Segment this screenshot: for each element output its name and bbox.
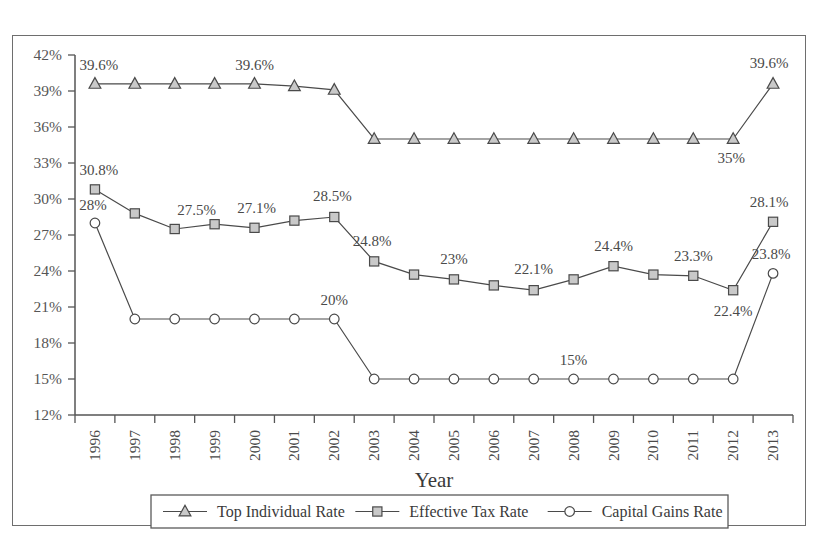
- data-label: 22.4%: [714, 303, 753, 319]
- data-point-marker: [250, 223, 259, 232]
- y-tick-label: 36%: [34, 118, 63, 135]
- chart-legend[interactable]: Top Individual RateEffective Tax RateCap…: [151, 495, 728, 528]
- data-point-marker: [489, 281, 498, 290]
- data-label: 23.8%: [752, 246, 791, 262]
- data-point-marker: [449, 275, 458, 284]
- y-tick-label: 18%: [34, 334, 63, 351]
- chart-page: 12%15%18%21%24%27%30%33%36%39%42% 39.6%3…: [0, 0, 820, 538]
- data-point-marker: [569, 275, 578, 284]
- x-tick-label: 2004: [405, 430, 422, 461]
- data-point-marker: [689, 271, 698, 280]
- data-point-marker: [608, 133, 620, 144]
- y-tick-label: 15%: [34, 370, 63, 387]
- legend-label: Capital Gains Rate: [602, 503, 723, 521]
- data-label: 39.6%: [750, 55, 789, 71]
- series-capital-gains-rate: [90, 218, 778, 384]
- series-line: [95, 223, 773, 379]
- x-tick-label: 2010: [644, 430, 661, 461]
- data-label: 23%: [440, 251, 468, 267]
- data-point-marker: [330, 212, 339, 221]
- data-point-marker: [729, 286, 738, 295]
- line-chart: 12%15%18%21%24%27%30%33%36%39%42% 39.6%3…: [0, 0, 820, 538]
- data-point-marker: [687, 133, 699, 144]
- data-label: 39.6%: [235, 57, 274, 73]
- data-label: 20%: [321, 292, 349, 308]
- data-point-marker: [290, 314, 300, 324]
- data-point-marker: [169, 78, 181, 89]
- y-tick-label: 27%: [34, 226, 63, 243]
- data-point-marker: [210, 314, 220, 324]
- data-point-marker: [488, 133, 500, 144]
- x-tick-label: 2012: [724, 430, 741, 461]
- data-point-marker: [170, 314, 180, 324]
- annotation-layer: 39.6%39.6%35%39.6%30.8%27.5%27.1%28.5%24…: [79, 55, 790, 368]
- y-axis-group: 12%15%18%21%24%27%30%33%36%39%42%: [34, 46, 75, 423]
- data-label: 15%: [560, 352, 588, 368]
- data-point-marker: [408, 133, 420, 144]
- data-point-marker: [649, 270, 658, 279]
- data-point-marker: [728, 374, 738, 384]
- data-point-marker: [90, 218, 100, 228]
- legend-label: Top Individual Rate: [217, 503, 345, 521]
- data-point-marker: [609, 262, 618, 271]
- data-point-marker: [768, 269, 778, 279]
- data-point-marker: [649, 374, 659, 384]
- data-point-marker: [329, 314, 339, 324]
- x-tick-label: 1996: [86, 430, 103, 461]
- data-label: 28%: [79, 197, 107, 213]
- data-point-marker: [209, 78, 221, 89]
- x-tick-label: 2003: [365, 430, 382, 461]
- data-label: 30.8%: [80, 162, 119, 178]
- x-tick-label: 2007: [525, 430, 542, 461]
- data-point-marker: [210, 220, 219, 229]
- data-point-marker: [528, 133, 540, 144]
- data-point-marker: [249, 78, 261, 89]
- data-label: 28.5%: [313, 188, 352, 204]
- data-label: 24.8%: [353, 233, 392, 249]
- data-point-marker: [568, 133, 580, 144]
- data-point-marker: [768, 217, 777, 226]
- x-tick-group: [75, 415, 793, 423]
- data-point-marker: [409, 270, 418, 279]
- data-label: 23.3%: [674, 248, 713, 264]
- data-point-marker: [370, 257, 379, 266]
- data-point-marker: [290, 216, 299, 225]
- y-tick-label: 33%: [34, 154, 63, 171]
- y-tick-label: 42%: [34, 46, 63, 63]
- data-label: 22.1%: [514, 261, 553, 277]
- legend-marker-circle-icon: [565, 507, 575, 517]
- x-tick-label: 2008: [565, 430, 582, 461]
- y-tick-label: 39%: [34, 82, 63, 99]
- series-top-individual-rate: [89, 78, 779, 144]
- data-point-marker: [129, 78, 141, 89]
- y-tick-label: 24%: [34, 262, 63, 279]
- data-label: 27.1%: [237, 200, 276, 216]
- data-label: 27.5%: [177, 202, 216, 218]
- data-point-marker: [250, 314, 260, 324]
- data-point-marker: [609, 374, 619, 384]
- data-point-marker: [90, 185, 99, 194]
- legend-label: Effective Tax Rate: [409, 503, 528, 520]
- x-axis-group: [75, 415, 793, 423]
- data-point-marker: [288, 80, 300, 91]
- x-tick-label: 2006: [485, 430, 502, 461]
- data-point-marker: [529, 286, 538, 295]
- x-tick-label: 1997: [126, 430, 143, 461]
- data-label: 35%: [717, 150, 745, 166]
- data-point-marker: [89, 78, 101, 89]
- data-label: 39.6%: [80, 57, 119, 73]
- data-point-marker: [569, 374, 579, 384]
- x-tick-label: 2013: [764, 430, 781, 461]
- data-point-marker: [170, 224, 179, 233]
- data-point-marker: [647, 133, 659, 144]
- data-point-marker: [369, 374, 379, 384]
- legend-marker-square-icon: [373, 507, 382, 516]
- data-point-marker: [448, 133, 460, 144]
- x-tick-label: 1999: [206, 430, 223, 461]
- x-tick-label: 2009: [605, 430, 622, 461]
- series-line: [95, 84, 773, 139]
- x-tick-label: 2002: [325, 430, 342, 461]
- data-point-marker: [449, 374, 459, 384]
- x-tick-label: 2001: [285, 430, 302, 461]
- data-point-marker: [767, 78, 779, 89]
